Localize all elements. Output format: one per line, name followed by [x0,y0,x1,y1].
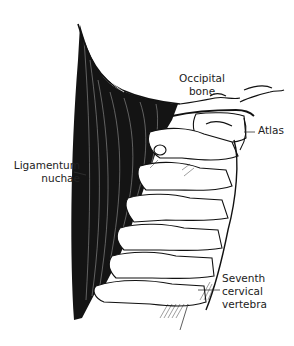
leader-line-seventh-tail [180,304,188,330]
label-occipital-line2: bone [176,85,228,98]
label-ligamentum-nuchae: Ligamentum nuchae [8,159,80,185]
label-ligamentum-line1: Ligamentum [8,159,80,172]
label-seventh-cervical-vertebra: Seventh cervical vertebra [222,272,267,311]
label-occipital-bone: Occipital bone [176,72,228,98]
label-seventh-line1: Seventh [222,272,267,285]
label-atlas: Atlas [258,124,284,137]
label-ligamentum-line2: nuchae [8,172,80,185]
label-occipital-line1: Occipital [176,72,228,85]
label-atlas-line1: Atlas [258,124,284,137]
label-seventh-line2: cervical [222,285,267,298]
label-seventh-line3: vertebra [222,298,267,311]
